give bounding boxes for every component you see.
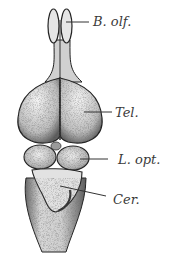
label-lobus-opticus: L. opt. <box>118 153 160 166</box>
label-cerebellum: Cer. <box>113 193 140 206</box>
brain-diagram <box>0 0 188 267</box>
label-bulbus-olfactorius: B. olf. <box>93 15 131 28</box>
olfactory-bulbs <box>45 9 82 82</box>
label-telencephalon: Tel. <box>115 106 139 119</box>
